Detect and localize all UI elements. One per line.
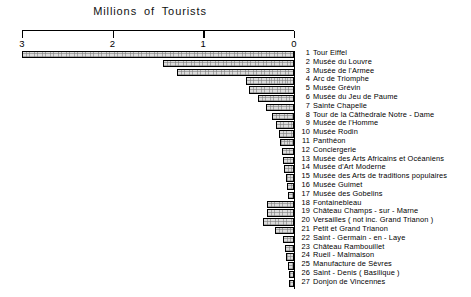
bar <box>163 60 294 67</box>
bar <box>286 253 294 260</box>
legend-item-label: Saint - Denis ( Basilique ) <box>313 268 400 277</box>
bar <box>284 165 294 172</box>
bar <box>177 69 294 76</box>
bar <box>267 209 294 216</box>
x-axis <box>22 30 294 39</box>
bar <box>275 227 294 234</box>
bar <box>283 157 294 164</box>
legend-item-label: Musée d'Art Moderne <box>313 162 386 171</box>
axis-tick-label: 2 <box>110 38 116 49</box>
legend-item-label: Fontainebleau <box>313 198 361 207</box>
bar <box>258 95 294 102</box>
legend-item-label: Musée Rodin <box>313 127 358 136</box>
bar <box>282 148 294 155</box>
bar <box>289 280 294 287</box>
bar <box>276 121 294 128</box>
bar <box>288 262 294 269</box>
legend-item-label: Musée du Louvre <box>313 57 372 66</box>
legend-item-label: Donjon de Vincennes <box>313 277 385 286</box>
bar <box>285 245 294 252</box>
axis-tick-label: 1 <box>201 38 207 49</box>
bar <box>249 86 294 93</box>
bar <box>267 201 294 208</box>
legend-item-label: Manufacture de Sèvres <box>313 259 392 268</box>
legend-item-label: Musée du Jeu de Paume <box>313 92 398 101</box>
axis-tick-2 <box>113 31 114 38</box>
bar <box>272 113 294 120</box>
legend-item-label: Arc de Triomphe <box>313 74 369 83</box>
bar <box>287 183 294 190</box>
bar <box>280 139 294 146</box>
legend-item-label: Saint - Germain - en - Laye <box>313 233 405 242</box>
axis-baseline <box>294 51 295 289</box>
legend-item-label: Tour Eiffel <box>313 48 347 57</box>
bar <box>286 174 294 181</box>
legend-item-label: Rueil - Malmaison <box>313 250 374 259</box>
tourism-bar-chart: Millions of Tourists 3210 1Tour Eiffel2M… <box>0 0 471 297</box>
legend-item-label: Musée Grévin <box>313 83 360 92</box>
axis-tick-1 <box>203 31 204 38</box>
legend-item-label: Musée de l'Armee <box>313 66 374 75</box>
bar <box>283 236 294 243</box>
legend-item-label: Musée des Arts de traditions populaires <box>313 171 447 180</box>
axis-tick-0 <box>294 31 295 38</box>
axis-tick-label: 3 <box>19 38 25 49</box>
legend-item-label: Versailles ( not inc. Grand Trianon ) <box>313 215 433 224</box>
bar <box>279 130 294 137</box>
bar <box>263 218 294 225</box>
legend-item: 27Donjon de Vincennes <box>299 278 471 287</box>
legend-item-label: Musée des Arts Africains et Océaniens <box>313 154 444 163</box>
chart-title: Millions of Tourists <box>0 5 300 17</box>
legend-item-label: Tour de la Câthedrale Notre - Dame <box>313 110 434 119</box>
plot-area <box>0 51 300 289</box>
bar <box>22 51 294 58</box>
legend-item-label: Musée de l'Homme <box>313 118 378 127</box>
legend-item-number: 27 <box>299 278 310 287</box>
legend-item-label: Musée Guimet <box>313 180 363 189</box>
legend-item-label: Musée des Gobelins <box>313 189 383 198</box>
legend-item-label: Château Rambouillet <box>313 242 384 251</box>
bar <box>246 77 294 84</box>
legend-item-label: Conciergerie <box>313 145 356 154</box>
bar <box>289 271 294 278</box>
axis-tick-label: 0 <box>291 38 297 49</box>
legend-item-label: Panthéon <box>313 136 346 145</box>
legend-item-label: Petit et Grand Trianon <box>313 224 388 233</box>
legend-item-label: Sainte Chapelle <box>313 101 367 110</box>
bar <box>266 104 294 111</box>
bar <box>288 192 294 199</box>
legend-item-label: Château Champs - sur - Marne <box>313 206 418 215</box>
axis-tick-3 <box>22 31 23 38</box>
legend-list: 1Tour Eiffel2Musée du Louvre3Musée de l'… <box>299 49 471 287</box>
